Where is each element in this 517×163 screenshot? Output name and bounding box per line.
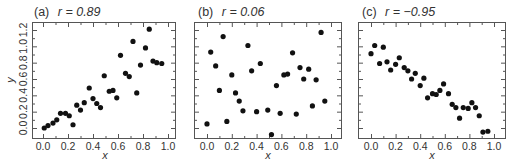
panel-b-frame-rect	[195, 23, 342, 139]
x-tick-label: 0.8	[462, 140, 477, 152]
data-point	[461, 105, 466, 110]
data-point	[240, 108, 245, 113]
panel-a-x-axis-label: x	[101, 149, 108, 161]
data-point	[54, 117, 59, 122]
panel-c-title: (c) r = −0.95	[362, 5, 435, 19]
y-tick-label: 0.6	[17, 72, 29, 87]
data-point	[477, 113, 482, 118]
data-point	[466, 106, 471, 111]
panel-b-axes-frame	[195, 23, 342, 139]
x-tick-label: 0.0	[364, 140, 379, 152]
y-tick-label: 0.2	[17, 104, 29, 119]
data-point	[480, 129, 485, 134]
data-point	[453, 105, 458, 110]
data-point	[114, 95, 119, 100]
panel-c-data-points	[368, 43, 490, 135]
data-point	[381, 45, 386, 50]
data-point	[204, 121, 209, 126]
data-point	[130, 39, 135, 44]
data-point	[421, 76, 426, 81]
data-point	[297, 65, 302, 70]
panel-a-label: (a)	[34, 5, 49, 19]
data-point	[368, 51, 373, 56]
x-tick-label: 0.4	[413, 140, 428, 152]
panel-b-no-correlation: (b) r = 0.06 0.00.20.40.60.81.0 x	[195, 5, 342, 161]
data-point	[70, 122, 75, 127]
panel-c-ticks	[359, 23, 505, 138]
data-point	[473, 105, 478, 110]
data-point	[134, 90, 139, 95]
x-tick-label: 0.0	[36, 140, 51, 152]
x-tick-label: 0.8	[299, 140, 314, 152]
panel-a-y-tick-labels: 0.00.20.40.60.81.01.2	[17, 23, 29, 136]
data-point	[425, 95, 430, 100]
x-tick-label: 0.6	[274, 140, 289, 152]
data-point	[457, 116, 462, 121]
panel-a-ticks	[33, 23, 175, 138]
data-point	[58, 111, 63, 116]
data-point	[138, 63, 143, 68]
data-point	[90, 96, 95, 101]
panel-b-label: (b)	[198, 5, 213, 19]
data-point	[384, 59, 389, 64]
data-point	[314, 77, 319, 82]
panel-c-x-axis-label: x	[428, 149, 435, 161]
x-tick-label: 1.0	[324, 140, 339, 152]
panel-b-title: (b) r = 0.06	[198, 5, 265, 19]
x-tick-label: 0.4	[249, 140, 264, 152]
data-point	[159, 61, 164, 66]
data-point	[294, 112, 299, 117]
data-point	[87, 85, 92, 90]
x-tick-label: 0.4	[86, 140, 101, 152]
panel-c-frame-rect	[359, 23, 506, 139]
data-point	[265, 107, 270, 112]
data-point	[221, 34, 226, 39]
x-tick-label: 0.2	[224, 140, 239, 152]
panel-b-x-axis-label: x	[264, 149, 271, 161]
x-tick-label: 0.6	[111, 140, 126, 152]
panel-c-negative-correlation: (c) r = −0.95 0.00.20.40.60.81.0 x	[359, 5, 506, 161]
x-tick-label: 0.2	[61, 140, 76, 152]
data-point	[372, 43, 377, 48]
panel-a-title: (a) r = 0.89	[34, 5, 101, 19]
x-tick-label: 0.8	[136, 140, 151, 152]
panel-b-r-value: r = 0.06	[222, 5, 265, 19]
data-point	[254, 109, 259, 114]
data-point	[102, 73, 107, 78]
data-point	[110, 88, 115, 93]
panel-a-r-value: r = 0.89	[58, 5, 101, 19]
y-tick-label: 0.4	[17, 88, 29, 103]
data-point	[217, 88, 222, 93]
data-point	[237, 98, 242, 103]
data-point	[469, 100, 474, 105]
data-point	[285, 72, 290, 77]
data-point	[405, 68, 410, 73]
data-point	[118, 53, 123, 58]
panel-b-data-points	[204, 30, 327, 137]
y-tick-label: 1.0	[17, 39, 29, 54]
data-point	[94, 101, 99, 106]
data-point	[301, 76, 306, 81]
y-tick-label: 1.2	[17, 23, 29, 38]
data-point	[147, 27, 152, 32]
data-point	[127, 74, 132, 79]
data-point	[418, 83, 423, 88]
panel-c-label: (c)	[362, 5, 377, 19]
data-point	[208, 49, 213, 54]
data-point	[318, 30, 323, 35]
data-point	[310, 103, 315, 108]
data-point	[446, 91, 451, 96]
data-point	[441, 81, 446, 86]
data-point	[409, 76, 414, 81]
data-point	[45, 123, 50, 128]
data-point	[413, 71, 418, 76]
data-point	[485, 129, 490, 134]
data-point	[434, 92, 439, 97]
x-tick-label: 0.2	[388, 140, 403, 152]
data-point	[397, 55, 402, 60]
data-point	[224, 119, 229, 124]
x-tick-label: 1.0	[161, 140, 176, 152]
panel-a-data-points	[42, 27, 165, 131]
data-point	[78, 107, 83, 112]
data-point	[274, 83, 279, 88]
